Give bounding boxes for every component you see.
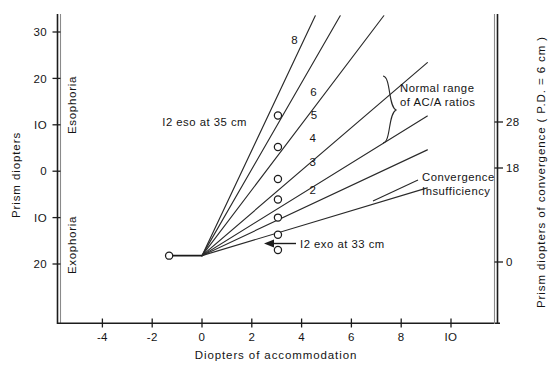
annotation-convergence-line1: Convergence <box>422 171 495 183</box>
ratio-line-label-2: 2 <box>309 184 316 196</box>
ratio-marker-5 <box>274 196 281 203</box>
y-tick-label-right-0: 28 <box>506 116 520 128</box>
ratio-line-label-3: 3 <box>309 156 316 168</box>
annotation-eso-note: I2 eso at 35 cm <box>162 116 247 128</box>
x-tick-label-4: 4 <box>298 331 305 343</box>
x-tick-label-0: -4 <box>97 331 108 343</box>
ratio-marker-4 <box>274 214 281 221</box>
left-y-ticks: 30 20 IO 0 IO 20 <box>33 26 60 270</box>
ratio-marker-8 <box>274 143 281 150</box>
region-label-esophoria: Esophoria <box>66 76 78 134</box>
x-axis-title: Diopters of accommodation <box>195 349 357 361</box>
x-tick-label-1: -2 <box>147 331 158 343</box>
ratio-line-label-4: 4 <box>309 132 316 144</box>
region-label-exophoria: Exophoria <box>66 216 78 274</box>
chart-figure: 30 20 IO 0 IO 20 Prism diopters Esophori… <box>0 0 555 370</box>
baseline-marker <box>166 252 173 259</box>
x-ticks: -4 -2 0 2 4 6 8 IO <box>97 319 458 344</box>
left-axis-group <box>58 14 61 324</box>
ratio-marker-2 <box>274 246 281 253</box>
x-tick-label-6: 8 <box>398 331 405 343</box>
y-tick-label-left-5: 20 <box>33 258 47 270</box>
x-tick-label-7: IO <box>445 331 458 343</box>
exo-arrow-head <box>264 240 274 248</box>
annotation-exo-note: I2 exo at 33 cm <box>300 238 385 250</box>
y-tick-label-right-1: 18 <box>506 162 520 174</box>
y-axis-title-right: Prism diopters of convergence ( P.D. = 6… <box>535 36 547 308</box>
marker-group <box>274 112 281 254</box>
y-tick-label-left-3: 0 <box>40 165 47 177</box>
right-axis-group <box>495 14 498 324</box>
x-tick-label-2: 0 <box>199 331 206 343</box>
y-tick-label-left-1: 20 <box>33 73 47 85</box>
normal-range-brace <box>383 76 396 143</box>
annotation-convergence-line2: Insufficiency <box>422 185 490 197</box>
ratio-line-label-5: 5 <box>311 109 318 121</box>
ratio-line-6 <box>202 16 384 256</box>
ratio-line-10 <box>202 16 315 256</box>
ratio-marker-3 <box>274 231 281 238</box>
x-tick-label-5: 6 <box>348 331 355 343</box>
y-tick-label-left-2: IO <box>34 119 47 131</box>
annotation-normal-range-line2: of AC/A ratios <box>400 96 475 108</box>
y-tick-label-left-4: IO <box>34 212 47 224</box>
y-tick-label-right-2: 0 <box>506 256 513 268</box>
annotation-normal-range-line1: Normal range <box>400 82 474 94</box>
ratio-marker-10 <box>274 112 281 119</box>
chart-canvas: 30 20 IO 0 IO 20 Prism diopters Esophori… <box>0 0 555 370</box>
exo-note-arrow <box>264 240 296 248</box>
baseline-group <box>166 252 202 259</box>
ratio-line-label-8: 8 <box>291 34 298 46</box>
y-tick-label-left-0: 30 <box>33 26 47 38</box>
x-tick-label-3: 2 <box>248 331 255 343</box>
ratio-marker-6 <box>274 175 281 182</box>
y-axis-title-left: Prism diopters <box>10 132 22 218</box>
ratio-line-label-6: 6 <box>310 86 317 98</box>
ratio-line-8 <box>202 16 340 256</box>
